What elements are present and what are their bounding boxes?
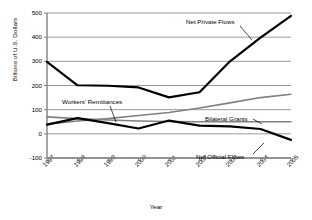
annotation-leader-line (253, 143, 264, 154)
line-chart: Billions of U.S. Dollars -10001002003004… (0, 0, 312, 220)
series-label-net-official-flows: Net Official Flows (196, 153, 244, 160)
series-label-workers-remittances: Workers' Remittances (62, 98, 122, 105)
annotation-leader-line (240, 26, 252, 40)
series-label-bilateral-grants: Bilateral Grants (205, 115, 248, 122)
plot-area (0, 0, 312, 220)
series-label-net-private-flows: Net Private Flows (186, 18, 234, 25)
x-axis-title: Year (0, 203, 312, 210)
